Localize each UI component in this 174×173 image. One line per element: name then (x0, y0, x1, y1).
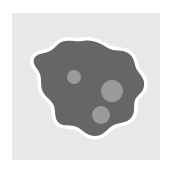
spot-middle-right (101, 80, 123, 102)
amoeba-blob-illustration: Amoeba blob illustration (0, 0, 174, 173)
spot-top-left (67, 70, 81, 84)
illustration-root: Amoeba blob illustration Dark gray organ… (0, 0, 174, 173)
spot-bottom-center (92, 106, 110, 124)
